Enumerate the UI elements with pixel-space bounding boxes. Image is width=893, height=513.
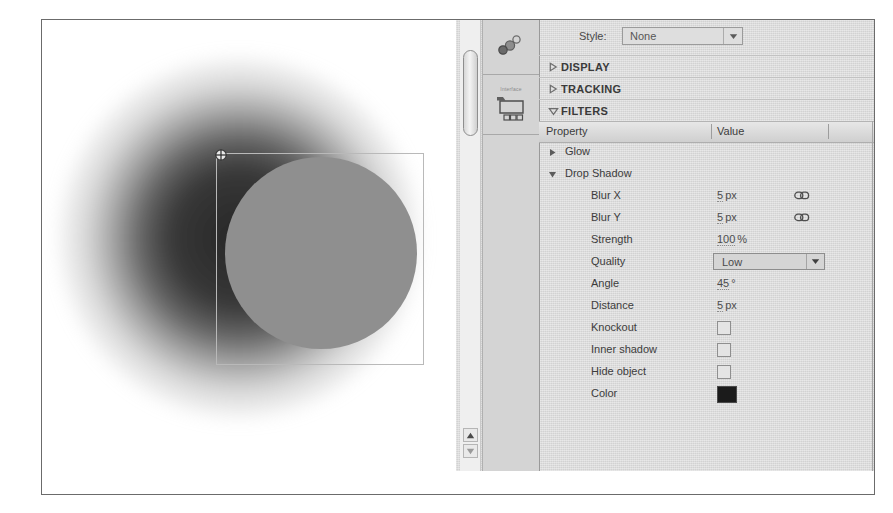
effects-icon (496, 34, 526, 60)
table-row[interactable]: Angle 45° (539, 273, 875, 295)
scrollbar-thumb[interactable] (463, 50, 478, 136)
chevron-down-icon[interactable] (806, 254, 824, 269)
property-value[interactable]: 5px (717, 299, 737, 311)
angle-value[interactable]: 45 (717, 277, 729, 290)
property-label: Hide object (591, 365, 646, 377)
column-divider[interactable] (711, 124, 712, 139)
section-title-filters: FILTERS (561, 105, 608, 117)
property-label: Quality (591, 255, 625, 267)
screenshot-page: Interface Style: None (0, 0, 893, 513)
property-label: Blur Y (591, 211, 621, 223)
section-title-display: DISPLAY (561, 61, 610, 73)
blur-x-unit: px (723, 189, 737, 201)
property-label: Inner shadow (591, 343, 657, 355)
chevron-down-icon[interactable] (545, 106, 561, 116)
distance-unit: px (723, 299, 737, 311)
property-label: Blur X (591, 189, 621, 201)
dock-item-library[interactable]: Interface (483, 74, 539, 135)
table-row[interactable]: Distance 5px (539, 295, 875, 317)
section-header-display[interactable]: DISPLAY (539, 55, 875, 78)
dock-item-library-label: Interface (500, 86, 521, 92)
scroll-up-arrow-icon[interactable] (463, 428, 478, 442)
inner-shadow-checkbox[interactable] (717, 343, 731, 357)
color-swatch[interactable] (717, 386, 737, 403)
dock-item-effects[interactable] (483, 20, 539, 75)
panel-bottom-gap (456, 471, 875, 494)
angle-unit: ° (729, 277, 735, 289)
section-title-tracking: TRACKING (561, 83, 621, 95)
column-header-value: Value (717, 125, 744, 137)
property-label: Distance (591, 299, 634, 311)
hide-object-checkbox[interactable] (717, 365, 731, 379)
quality-dropdown-value: Low (714, 256, 806, 268)
knockout-checkbox[interactable] (717, 321, 731, 335)
property-label: Knockout (591, 321, 637, 333)
link-chain-icon[interactable] (794, 190, 810, 201)
triangle-right-icon[interactable] (547, 147, 557, 157)
property-table-header: Property Value (539, 121, 875, 143)
library-folder-icon (494, 93, 528, 123)
property-label: Drop Shadow (565, 167, 632, 179)
strength-value[interactable]: 100 (717, 233, 735, 246)
section-header-filters[interactable]: FILTERS (539, 99, 875, 122)
table-row[interactable]: Drop Shadow (539, 163, 875, 185)
property-label: Glow (565, 145, 590, 157)
table-row[interactable]: Blur X 5px (539, 185, 875, 207)
registration-point-crosshair[interactable] (214, 148, 228, 162)
chevron-right-icon[interactable] (545, 84, 561, 94)
table-row[interactable]: Inner shadow (539, 339, 875, 361)
panel-content-column: Style: None DISPLAY (539, 20, 875, 471)
quality-dropdown[interactable]: Low (713, 253, 825, 270)
section-header-tracking[interactable]: TRACKING (539, 77, 875, 100)
property-label: Strength (591, 233, 633, 245)
table-row[interactable]: Quality Low (539, 251, 875, 273)
screenshot-frame: Interface Style: None (41, 19, 875, 495)
style-select-value: None (623, 30, 723, 42)
scroll-down-arrow-icon[interactable] (463, 444, 478, 458)
style-row: Style: None (539, 20, 875, 55)
property-value[interactable]: 100% (717, 233, 747, 245)
property-label: Angle (591, 277, 619, 289)
table-row[interactable]: Glow (539, 141, 875, 163)
triangle-down-icon[interactable] (547, 169, 557, 179)
table-row[interactable]: Knockout (539, 317, 875, 339)
circle-shape[interactable] (225, 157, 417, 349)
canvas-stage[interactable] (42, 20, 456, 494)
column-divider[interactable] (828, 124, 829, 139)
link-chain-icon[interactable] (794, 212, 810, 223)
panel-icon-dock: Interface (482, 20, 540, 471)
column-header-property: Property (546, 125, 588, 137)
property-label: Color (591, 387, 617, 399)
table-row[interactable]: Color (539, 383, 875, 405)
table-row[interactable]: Strength 100% (539, 229, 875, 251)
strength-unit: % (735, 233, 747, 245)
style-label: Style: (579, 30, 607, 42)
blur-y-unit: px (723, 211, 737, 223)
property-value[interactable]: 5px (717, 189, 737, 201)
panel-vertical-scrollbar[interactable] (460, 20, 481, 471)
style-select[interactable]: None (622, 27, 743, 45)
property-value[interactable]: 5px (717, 211, 737, 223)
chevron-down-icon[interactable] (723, 28, 742, 44)
properties-panel: Interface Style: None (456, 20, 875, 471)
table-row[interactable]: Hide object (539, 361, 875, 383)
table-row[interactable]: Blur Y 5px (539, 207, 875, 229)
chevron-right-icon[interactable] (545, 62, 561, 72)
property-value[interactable]: 45° (717, 277, 736, 289)
